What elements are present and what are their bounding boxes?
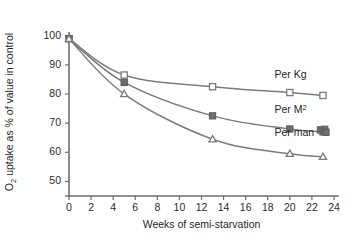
series-labels: Per KgPer M2Per man xyxy=(274,68,314,138)
y-tick-label-90: 90 xyxy=(49,58,61,70)
data-point-1-1 xyxy=(121,79,127,85)
series-label-per-kg: Per Kg xyxy=(274,68,306,80)
x-tick-label-22: 22 xyxy=(306,201,318,213)
series-label-text-2: Per man xyxy=(274,126,314,138)
series-label-text-1: Per M xyxy=(274,103,302,115)
data-point-2-2 xyxy=(209,136,216,142)
data-point-0-3 xyxy=(287,89,293,95)
series-label-per-m2: Per M2 xyxy=(274,103,306,115)
data-point-0-2 xyxy=(209,84,215,90)
y-tick-label-80: 80 xyxy=(49,87,61,99)
y-axis-title-post: uptake as % of value in control xyxy=(3,33,15,179)
x-tick-label-14: 14 xyxy=(218,201,230,213)
y-tick-label-60: 60 xyxy=(49,145,61,157)
series-container xyxy=(65,35,329,159)
x-tick-label-2: 2 xyxy=(88,201,94,213)
series-label-text-0: Per Kg xyxy=(274,68,306,80)
x-axis: 024681012141618202224 xyxy=(66,196,340,213)
x-tick-label-12: 12 xyxy=(196,201,208,213)
series-label-sup-1: 2 xyxy=(302,103,306,112)
data-point-0-1 xyxy=(121,72,127,78)
series-label-per-man: Per man xyxy=(274,126,314,138)
data-point-cluster-1-2 xyxy=(323,129,329,135)
chart-canvas: 5060708090100 024681012141618202224 Per … xyxy=(0,0,352,240)
series-per-man xyxy=(65,35,326,159)
y-tick-label-50: 50 xyxy=(49,174,61,186)
x-tick-label-4: 4 xyxy=(110,201,116,213)
x-tick-label-0: 0 xyxy=(66,201,72,213)
data-point-0-4 xyxy=(320,92,326,98)
x-tick-label-18: 18 xyxy=(262,201,274,213)
series-line-2 xyxy=(69,39,323,157)
x-axis-title: Weeks of semi-starvation xyxy=(143,218,261,230)
x-tick-label-16: 16 xyxy=(240,201,252,213)
y-tick-label-100: 100 xyxy=(43,29,61,41)
chart-figure: 5060708090100 024681012141618202224 Per … xyxy=(0,0,352,240)
data-point-1-2 xyxy=(209,113,215,119)
y-axis-title-text: O2 uptake as % of value in control xyxy=(3,33,18,191)
y-axis: 5060708090100 xyxy=(43,29,69,196)
y-axis-title-pre: O xyxy=(3,183,15,191)
y-axis-title: O2 uptake as % of value in control xyxy=(3,33,18,191)
x-tick-label-8: 8 xyxy=(154,201,160,213)
data-point-2-3 xyxy=(286,150,293,156)
x-tick-label-6: 6 xyxy=(132,201,138,213)
x-tick-label-20: 20 xyxy=(284,201,296,213)
x-tick-label-10: 10 xyxy=(174,201,186,213)
x-tick-label-24: 24 xyxy=(328,201,340,213)
y-tick-label-70: 70 xyxy=(49,116,61,128)
data-point-2-4 xyxy=(319,153,326,159)
